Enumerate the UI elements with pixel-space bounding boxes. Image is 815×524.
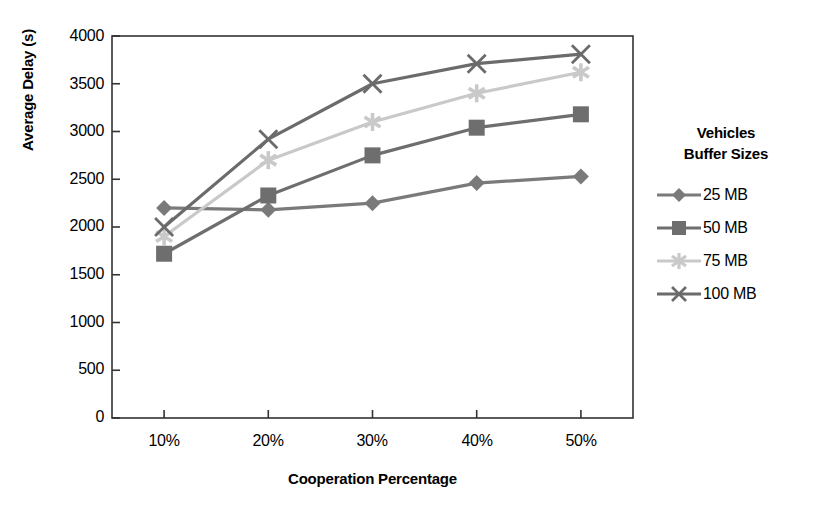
square-marker-icon (655, 217, 703, 239)
axis-ticks (112, 36, 581, 418)
legend: Vehicles Buffer Sizes 25 MB 50 MB 75 MB (655, 122, 815, 310)
chart-figure: Average Delay (s) 4000 3500 3000 2500 20… (0, 0, 815, 524)
legend-label: 100 MB (703, 285, 756, 303)
diamond-marker-icon (655, 184, 703, 206)
legend-title: Vehicles Buffer Sizes (655, 122, 797, 164)
legend-label: 75 MB (703, 252, 748, 270)
legend-title-line1: Vehicles (655, 122, 797, 143)
legend-item-100mb[interactable]: 100 MB (655, 277, 815, 310)
cross-x-marker-icon (655, 283, 703, 305)
legend-item-75mb[interactable]: 75 MB (655, 244, 815, 277)
legend-label: 50 MB (703, 219, 748, 237)
legend-item-25mb[interactable]: 25 MB (655, 178, 815, 211)
series-markers (155, 45, 590, 262)
plot-frame (112, 36, 633, 418)
legend-title-line2: Buffer Sizes (655, 143, 797, 164)
star-marker-icon (655, 250, 703, 272)
legend-label: 25 MB (703, 186, 748, 204)
legend-item-50mb[interactable]: 50 MB (655, 211, 815, 244)
